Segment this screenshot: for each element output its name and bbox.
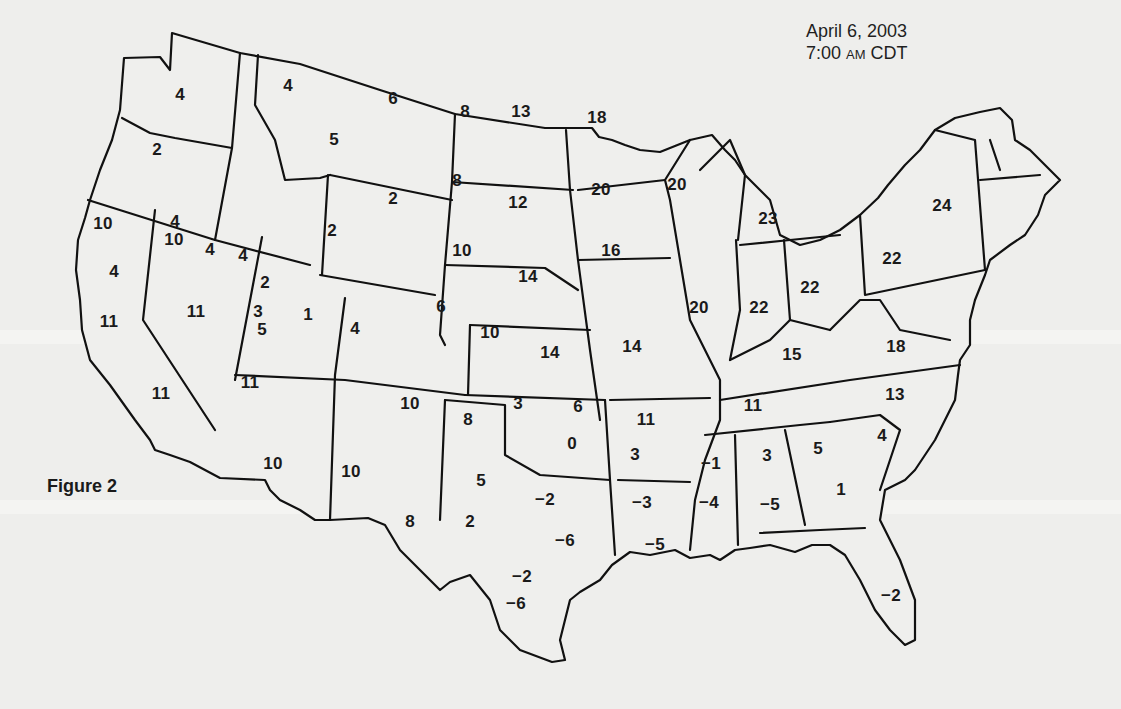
station-reading: 0: [567, 434, 577, 454]
station-reading: 8: [452, 171, 462, 191]
station-reading: 22: [749, 298, 768, 318]
station-reading: −2: [512, 567, 532, 587]
station-reading: 10: [164, 230, 183, 250]
station-reading: 10: [480, 323, 499, 343]
station-reading: −6: [506, 594, 526, 614]
station-reading: 8: [463, 410, 473, 430]
station-reading: 4: [238, 246, 248, 266]
figure-label: Figure 2: [47, 476, 117, 497]
station-reading: 3: [762, 446, 772, 466]
weather-map-figure: April 6, 2003 7:00 AM CDT Figure 2 42444…: [0, 0, 1121, 709]
station-reading: 2: [260, 273, 270, 293]
station-reading: 4: [205, 240, 215, 260]
station-reading: 1: [303, 305, 313, 325]
station-reading: 10: [263, 454, 282, 474]
station-reading: −5: [760, 495, 780, 515]
station-reading: 4: [877, 426, 887, 446]
station-reading: 22: [882, 249, 901, 269]
station-reading: 20: [689, 298, 708, 318]
station-reading: −6: [555, 531, 575, 551]
station-reading: 10: [452, 241, 471, 261]
timestamp-label: April 6, 2003 7:00 AM CDT: [806, 20, 908, 66]
station-reading: 2: [152, 140, 162, 160]
station-reading: −2: [535, 490, 555, 510]
station-reading: 23: [758, 209, 777, 229]
station-reading: 20: [667, 175, 686, 195]
station-reading: 24: [932, 196, 951, 216]
station-reading: 11: [241, 373, 259, 393]
station-reading: 4: [283, 76, 293, 96]
station-reading: 6: [436, 297, 446, 317]
station-reading: 6: [388, 89, 398, 109]
station-reading: 10: [341, 462, 360, 482]
station-reading: 16: [601, 241, 620, 261]
station-reading: 6: [573, 397, 583, 417]
station-reading: 2: [465, 512, 475, 532]
station-reading: 4: [109, 262, 119, 282]
station-reading: 18: [886, 337, 905, 357]
station-reading: 20: [591, 180, 610, 200]
station-reading: 4: [175, 85, 185, 105]
time-text: 7:00 AM CDT: [806, 42, 908, 66]
station-reading: 11: [152, 384, 170, 404]
station-reading: 11: [637, 410, 655, 430]
station-reading: −3: [632, 493, 652, 513]
station-reading: 10: [400, 394, 419, 414]
date-text: April 6, 2003: [806, 20, 908, 42]
station-reading: −4: [699, 493, 719, 513]
station-reading: −1: [701, 454, 721, 474]
station-reading: 15: [782, 345, 801, 365]
station-reading: 8: [460, 102, 470, 122]
station-reading: 11: [187, 302, 205, 322]
station-reading: 3: [253, 302, 263, 322]
station-reading: 14: [622, 337, 641, 357]
station-reading: 2: [388, 189, 398, 209]
station-reading: 11: [100, 312, 118, 332]
station-reading: 3: [513, 394, 523, 414]
station-reading: 5: [476, 471, 486, 491]
station-reading: 11: [744, 396, 762, 416]
station-reading: 22: [800, 278, 819, 298]
station-reading: 12: [508, 193, 527, 213]
station-reading: 10: [93, 214, 112, 234]
station-reading: 8: [405, 512, 415, 532]
station-reading: 5: [329, 130, 339, 150]
station-reading: 4: [350, 319, 360, 339]
station-reading: 4: [170, 212, 180, 232]
us-map-outline: [0, 0, 1121, 709]
station-reading: −2: [881, 586, 901, 606]
station-reading: −5: [645, 535, 665, 555]
station-reading: 14: [540, 343, 559, 363]
us-outline: [76, 33, 1060, 662]
station-reading: 13: [885, 385, 904, 405]
station-reading: 2: [327, 221, 337, 241]
station-reading: 3: [630, 445, 640, 465]
station-reading: 13: [511, 102, 530, 122]
station-reading: 5: [257, 320, 267, 340]
station-reading: 18: [587, 108, 606, 128]
station-reading: 14: [518, 267, 537, 287]
station-reading: 1: [836, 480, 846, 500]
station-reading: 5: [813, 439, 823, 459]
